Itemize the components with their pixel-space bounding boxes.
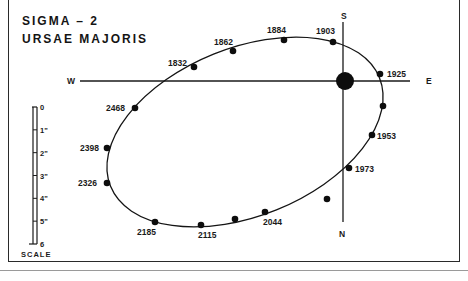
orbit-year-label: 2185 <box>137 227 156 237</box>
scale-tick-label: 1" <box>40 126 48 135</box>
orbit-point <box>132 105 139 112</box>
orbit-point <box>346 165 353 172</box>
orbit-point <box>230 48 237 55</box>
orbit-point <box>191 64 198 71</box>
east-label: E <box>426 76 432 86</box>
scale-tick-label: 0 <box>40 103 44 112</box>
scale-tick-label: 2" <box>40 149 48 158</box>
orbit-point <box>104 180 111 187</box>
north-label: N <box>339 229 345 239</box>
south-label: S <box>341 11 347 21</box>
orbit-point <box>330 39 337 46</box>
orbit-year-label: 2468 <box>106 103 125 113</box>
orbit-point <box>152 219 159 226</box>
orbit-year-label: 1884 <box>267 25 286 35</box>
orbit-year-label: 1903 <box>316 26 335 36</box>
orbit-point <box>324 196 331 203</box>
orbit-year-label: 2044 <box>263 217 282 227</box>
orbit-ellipse <box>79 0 411 264</box>
scale-tick-label: 5" <box>40 217 48 226</box>
orbit-point <box>380 103 387 110</box>
orbit-year-label: 1925 <box>387 69 406 79</box>
scale-tick-label: 3" <box>40 172 48 181</box>
primary-star <box>336 72 354 90</box>
orbit-year-label: 1973 <box>355 164 374 174</box>
orbit-year-label: 2326 <box>78 178 97 188</box>
orbit-year-label: 2115 <box>198 230 217 240</box>
orbit-point <box>369 132 376 139</box>
orbit-diagram: W E S N 18321862188419031925195319732044… <box>0 0 468 281</box>
orbit-point <box>232 216 239 223</box>
orbit-point <box>198 222 205 229</box>
west-label: W <box>67 76 76 86</box>
orbit-point <box>377 71 384 78</box>
orbit-point <box>262 209 269 216</box>
orbit-point <box>281 37 288 44</box>
scale-label: SCALE <box>21 250 51 259</box>
orbit-points <box>104 37 387 229</box>
scale-tick-label: 4" <box>40 194 48 203</box>
orbit-year-label: 1953 <box>377 131 396 141</box>
orbit-point <box>104 145 111 152</box>
orbit-year-label: 1862 <box>214 37 233 47</box>
orbit-year-label: 2398 <box>80 143 99 153</box>
orbit-year-label: 1832 <box>168 58 187 68</box>
scale-bar: 01"2"3"4"5"6 <box>29 103 48 249</box>
scale-tick-label: 6 <box>40 240 44 249</box>
